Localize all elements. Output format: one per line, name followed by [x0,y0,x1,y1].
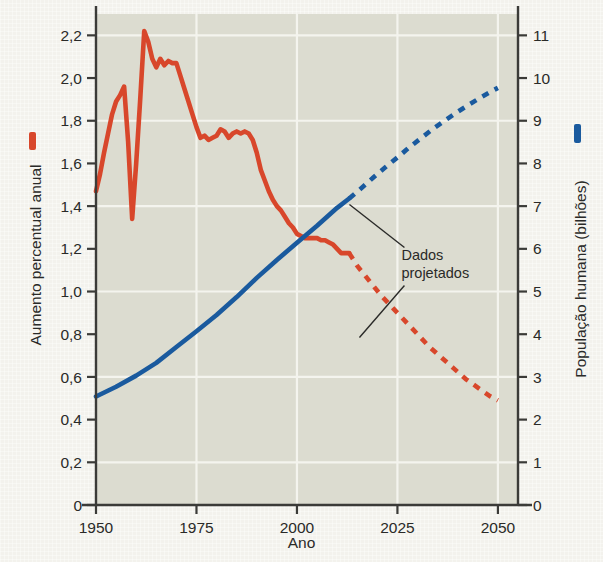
tick-label-y-right: 9 [533,112,542,129]
population-growth-chart: 00,20,40,60,81,01,21,41,61,82,02,2012345… [0,0,603,562]
tick-label-y-right: 6 [533,240,542,257]
tick-label-y-right: 10 [533,70,551,87]
tick-label-y-left: 0,4 [60,411,82,428]
annotation-text-line1: Dados [401,247,443,263]
figure-container: 00,20,40,60,81,01,21,41,61,82,02,2012345… [0,0,603,562]
tick-label-y-left: 1,6 [60,155,82,172]
annotation-text-line2: projetados [401,265,469,281]
tick-label-y-right: 7 [533,198,542,215]
tick-label-y-right: 1 [533,454,542,471]
tick-label-y-left: 1,8 [60,112,82,129]
plot-background [96,14,518,505]
tick-label-y-left: 0,2 [60,454,82,471]
y-axis-left-title-wrap: Aumento percentual anual [22,90,48,420]
y-axis-left-title: Aumento percentual anual [27,105,45,405]
tick-label-y-right: 2 [533,411,542,428]
y-axis-right-title-wrap: População humana (bilhões) [566,80,592,460]
tick-label-y-right: 5 [533,283,542,300]
tick-label-y-left: 2,2 [60,27,82,44]
tick-label-y-right: 11 [533,27,549,44]
tick-label-y-left: 1,0 [60,283,82,300]
tick-label-y-right: 0 [533,497,542,514]
tick-label-y-left: 0,8 [60,326,82,343]
tick-label-y-left: 0 [73,497,82,514]
tick-label-y-right: 8 [533,155,542,172]
plot-area [96,14,518,505]
tick-label-y-left: 1,2 [60,240,82,257]
tick-label-y-left: 0,6 [60,369,82,386]
tick-label-y-left: 2,0 [60,70,82,87]
x-axis-title: Ano [0,534,603,552]
tick-label-y-left: 1,4 [60,198,82,215]
tick-label-y-right: 3 [533,369,542,386]
tick-label-y-right: 4 [533,326,542,343]
y-axis-right-title: População humana (bilhões) [572,129,590,429]
